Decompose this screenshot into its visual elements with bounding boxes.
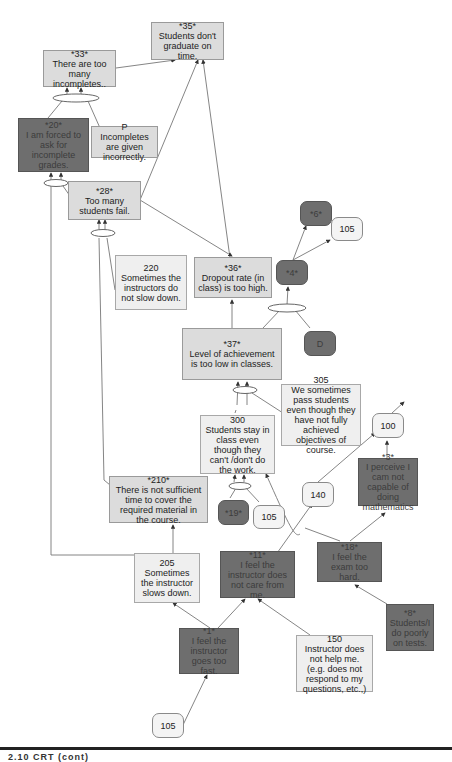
node-P[interactable]: P Incompletes are given incorrectly. — [91, 126, 158, 158]
node-3-id: *3* — [382, 452, 394, 462]
node-1-id: *1* — [203, 626, 215, 636]
node-305-id: 305 — [313, 375, 328, 385]
page-divider — [0, 747, 452, 750]
node-300-text: Students stay in class even though they … — [204, 425, 271, 475]
node-18-text: I feel the exam too hard. — [321, 552, 378, 582]
node-210[interactable]: *210* There is not sufficient time to co… — [109, 476, 208, 523]
node-3[interactable]: *3* I perceive I cam not capable of doin… — [358, 458, 418, 506]
node-1-text: I feel the instructor goes too fast. — [183, 636, 235, 676]
node-105-bottom-id: 105 — [160, 721, 175, 731]
node-33-id: *33* — [71, 49, 88, 59]
node-140-id: 140 — [310, 490, 325, 500]
node-140[interactable]: 140 — [302, 482, 334, 507]
node-150-id: 150 — [327, 634, 342, 644]
node-100-id: 100 — [380, 421, 395, 431]
and-connector-300 — [229, 483, 251, 490]
node-205[interactable]: 205 Sometimes the instructor slows down. — [134, 553, 200, 603]
node-P-id: P — [121, 122, 127, 132]
node-D-id: D — [317, 339, 324, 349]
node-36[interactable]: *36* Dropout rate (in class) is too high… — [194, 257, 272, 298]
node-35-id: *35* — [179, 21, 196, 31]
node-4-id: *4* — [286, 268, 298, 278]
node-150[interactable]: 150 Instructor does not help me. (e.g. d… — [296, 635, 373, 692]
and-connector-4 — [268, 304, 306, 312]
node-11[interactable]: *11* I feel the instructor does not care… — [220, 551, 295, 598]
node-6-id: *6* — [310, 209, 322, 219]
node-105-mid[interactable]: 105 — [253, 505, 285, 529]
node-220[interactable]: 220 Sometimes the instructors do not slo… — [115, 255, 187, 310]
node-20[interactable]: *20* I am forced to ask for incomplete g… — [18, 118, 89, 172]
node-6[interactable]: *6* — [300, 201, 332, 226]
node-19[interactable]: *19* — [218, 500, 249, 525]
node-D[interactable]: D — [304, 331, 336, 356]
node-20-text: I am forced to ask for incomplete grades… — [22, 130, 85, 170]
node-205-text: Sometimes the instructor slows down. — [138, 568, 196, 598]
node-300[interactable]: 300 Students stay in class even though t… — [200, 415, 275, 474]
node-P-text: Incompletes are given incorrectly. — [95, 132, 154, 162]
node-28-id: *28* — [96, 186, 113, 196]
node-37[interactable]: *37* Level of achievement is too low in … — [182, 328, 282, 380]
node-35[interactable]: *35* Students don't graduate on time. — [151, 22, 224, 60]
node-305[interactable]: 305 We sometimes pass students even thou… — [281, 384, 361, 446]
node-35-text: Students don't graduate on time. — [155, 31, 220, 61]
node-19-id: *19* — [225, 508, 242, 518]
node-33-text: There are too many incompletes.. — [47, 59, 112, 89]
node-8-text: Students/I do poorly on tests. — [390, 618, 431, 648]
node-37-text: Level of achievement is too low in class… — [186, 349, 278, 369]
node-210-id: *210* — [147, 475, 169, 485]
node-33[interactable]: *33* There are too many incompletes.. — [43, 50, 116, 87]
node-1[interactable]: *1* I feel the instructor goes too fast. — [179, 628, 239, 674]
and-connector-20 — [44, 180, 68, 187]
node-18[interactable]: *18* I feel the exam too hard. — [317, 542, 382, 582]
node-300-id: 300 — [230, 415, 245, 425]
node-8[interactable]: *8* Students/I do poorly on tests. — [386, 604, 434, 651]
node-11-id: *11* — [249, 550, 265, 560]
node-105-mid-id: 105 — [261, 512, 276, 522]
and-connector-33 — [53, 94, 99, 102]
node-8-id: *8* — [404, 608, 416, 618]
node-18-id: *18* — [341, 542, 358, 552]
node-150-text: Instructor does not help me. (e.g. does … — [300, 644, 369, 694]
node-20-id: *20* — [45, 120, 62, 130]
node-36-id: *36* — [224, 263, 241, 273]
node-305-text: We sometimes pass students even though t… — [285, 385, 357, 455]
and-connector-28 — [91, 230, 115, 237]
figure-caption: 2.10 CRT (cont) — [8, 752, 89, 762]
and-connector-37 — [233, 387, 257, 394]
node-100[interactable]: 100 — [372, 413, 404, 438]
node-28[interactable]: *28* Too many students fail. — [68, 181, 141, 220]
node-205-id: 205 — [159, 558, 174, 568]
node-36-text: Dropout rate (in class) is too high. — [198, 273, 268, 293]
node-37-id: *37* — [223, 339, 240, 349]
node-220-id: 220 — [143, 263, 158, 273]
node-220-text: Sometimes the instructors do not slow do… — [119, 273, 183, 303]
node-3-text: I perceive I cam not capable of doing ma… — [362, 462, 414, 512]
node-105-top-id: 105 — [339, 224, 354, 234]
node-105-bottom[interactable]: 105 — [152, 713, 184, 738]
node-28-text: Too many students fail. — [72, 196, 137, 216]
node-11-text: I feel the instructor does not care from… — [224, 560, 291, 600]
node-105-top[interactable]: 105 — [331, 217, 363, 241]
node-210-text: There is not sufficient time to cover th… — [113, 485, 204, 525]
node-4[interactable]: *4* — [276, 260, 308, 285]
